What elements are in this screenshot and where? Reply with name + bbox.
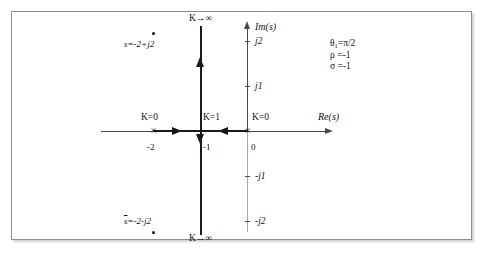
pole-marker-origin [243, 126, 252, 135]
point-label-lower: s=-2-j2 [124, 217, 151, 226]
locus-branch-lower [200, 131, 202, 235]
point-marker-lower [152, 231, 155, 234]
locus-arrow-upward [196, 57, 204, 67]
tick-minus-j2 [245, 221, 250, 222]
root-locus-figure: Re(s) Im(s) j2 j1 -j1 -j2 K=0 -2 [0, 0, 488, 261]
imag-axis-line-lower [247, 131, 248, 232]
parameter-rho: ρ =-1 [330, 50, 355, 62]
locus-arrow-rightward [172, 127, 182, 135]
real-axis-arrowhead [325, 128, 333, 134]
value-label-minus-one: -1 [203, 143, 211, 152]
tick-label-minus-j2: -j2 [255, 217, 266, 227]
point-marker-upper [152, 32, 155, 35]
real-axis-label: Re(s) [318, 112, 339, 122]
value-label-zero: 0 [251, 143, 256, 152]
tick-label-j1: j1 [255, 82, 262, 92]
tick-j1 [245, 86, 250, 87]
locus-branch-upper [200, 26, 202, 131]
imag-axis-label: Im(s) [255, 22, 276, 32]
gain-label-k-infinity-top: K→∞ [189, 14, 212, 24]
parameter-theta-value: =π/2 [338, 38, 356, 48]
gain-label-k-zero-origin: K=0 [252, 113, 269, 123]
parameter-sigma: σ =-1 [330, 61, 355, 73]
locus-arrow-leftward [218, 127, 228, 135]
value-label-minus-two: -2 [147, 143, 155, 152]
point-label-lower-value: =-2-j2 [128, 216, 152, 226]
tick-label-minus-j1: -j1 [255, 172, 266, 182]
tick-j2 [245, 41, 250, 42]
tick-label-j2: j2 [255, 37, 262, 47]
plot-frame: Re(s) Im(s) j2 j1 -j1 -j2 K=0 -2 [11, 11, 472, 240]
imag-axis-arrowhead [244, 21, 250, 29]
parameter-theta-subscript: 1 [335, 42, 338, 49]
gain-label-k-one-center: K=1 [203, 113, 220, 123]
parameter-theta-symbol: θ [330, 38, 335, 48]
gain-label-k-infinity-bottom: K→∞ [189, 234, 212, 244]
parameter-rho-value: =-1 [335, 50, 351, 60]
parameter-sigma-value: =-1 [335, 61, 351, 71]
parameter-theta: θ1=π/2 [330, 38, 355, 50]
point-label-upper: s=-2+j2 [124, 40, 154, 49]
tick-minus-j1 [245, 176, 250, 177]
gain-label-k-zero-left: K=0 [141, 113, 158, 123]
parameter-annotation-block: θ1=π/2 ρ =-1 σ =-1 [330, 38, 355, 73]
pole-marker-minus-two [149, 126, 158, 135]
